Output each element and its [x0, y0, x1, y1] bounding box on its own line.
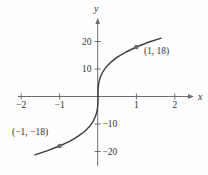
y-tick-label-10: 10	[82, 64, 92, 75]
x-tick-label-1: 1	[134, 100, 139, 111]
y-tick-label-neg20: −20	[103, 146, 118, 157]
x-axis-arrowhead	[188, 94, 194, 99]
x-tick-label-neg2: −2	[16, 100, 26, 111]
point-annotation-neg1-neg18: (−1, −18)	[12, 127, 48, 138]
x-axis-label: x	[198, 91, 202, 102]
data-point-dot	[134, 45, 138, 49]
data-point-dot	[57, 144, 61, 148]
function-graph-figure: y x −2 −1 1 2 20 10 −10 −20 (1, 18) (−1,…	[0, 0, 208, 175]
y-tick-label-20: 20	[82, 36, 92, 47]
y-axis-arrowhead	[95, 18, 100, 24]
y-axis-label: y	[94, 3, 98, 14]
point-annotation-1-18: (1, 18)	[144, 46, 169, 57]
x-tick-label-2: 2	[172, 100, 177, 111]
x-tick-label-neg1: −1	[55, 100, 65, 111]
y-tick-label-neg10: −10	[103, 119, 118, 130]
